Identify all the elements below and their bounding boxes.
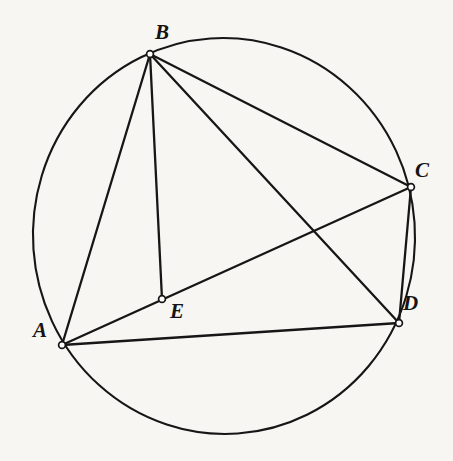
segment-BC (150, 54, 411, 187)
segment-AD (62, 323, 399, 345)
point-label-A: A (33, 320, 47, 341)
circumscribed-circle (20, 25, 429, 447)
point-label-E: E (170, 301, 184, 322)
point-marker-A (59, 342, 66, 349)
segment-BE (150, 54, 162, 299)
point-label-D: D (403, 293, 418, 314)
geometry-figure: A B C D E (0, 0, 453, 461)
geometry-canvas (0, 0, 453, 461)
point-marker-B (147, 51, 154, 58)
segment-AC (62, 187, 411, 345)
point-label-C: C (415, 160, 429, 181)
segment-AB (62, 54, 150, 345)
point-marker-C (408, 184, 415, 191)
point-marker-E (159, 296, 166, 303)
point-marker-D (396, 320, 403, 327)
point-label-B: B (155, 22, 169, 43)
segment-BD (150, 54, 399, 323)
